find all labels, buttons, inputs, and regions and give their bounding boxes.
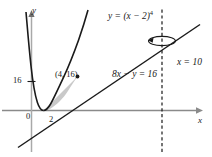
tick-label-x-2: 2 xyxy=(49,115,53,124)
curve-equation-text: y = (x − 2) xyxy=(108,11,150,21)
figure-canvas: y x y = (x − 2)4 8x − y = 16 x = 10 (4, … xyxy=(0,0,212,157)
tick-label-y-16: 16 xyxy=(13,76,22,85)
line-curve xyxy=(18,25,200,148)
arrow-right-icon xyxy=(196,107,203,114)
x-axis-label: x xyxy=(198,116,202,125)
quartic-curve-right xyxy=(44,10,89,111)
graph-svg xyxy=(0,0,212,157)
intersection-point-label: (4, 16) xyxy=(55,70,78,79)
tick-label-origin: 0 xyxy=(26,112,30,121)
shaded-region xyxy=(44,77,78,111)
curve-equation-label: y = (x − 2)4 xyxy=(108,10,153,22)
rotation-axis-label: x = 10 xyxy=(177,58,202,68)
line-equation-label: 8x − y = 16 xyxy=(112,70,157,80)
curve-exponent: 4 xyxy=(150,9,153,16)
y-axis-label: y xyxy=(32,6,36,15)
quartic-curve-left xyxy=(26,12,44,111)
